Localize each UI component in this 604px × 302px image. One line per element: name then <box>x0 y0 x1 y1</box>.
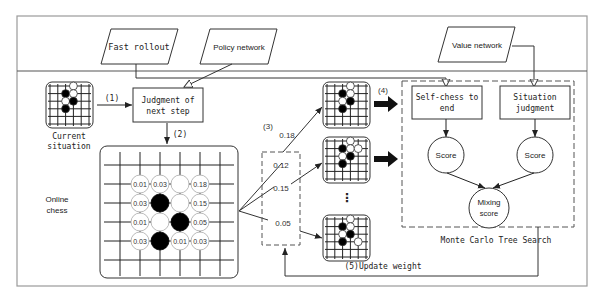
self-chess-label-1: Self-chess to <box>416 93 479 102</box>
white-stone <box>346 90 354 98</box>
current-situation-board <box>46 82 93 128</box>
white-stone <box>354 145 362 153</box>
current-situation-label-2: situation <box>47 142 91 151</box>
white-stone <box>339 230 347 238</box>
policy-network-label: Policy network <box>213 43 266 52</box>
probability-value: 0.01 <box>133 181 147 188</box>
self-chess-label-2: end <box>440 104 455 113</box>
black-stone <box>346 230 354 238</box>
judgment-label-1: Judgment of <box>142 96 195 105</box>
probability-value: 0.05 <box>193 219 207 226</box>
step4-label: (4) <box>378 86 388 95</box>
score-left-node: Score <box>428 137 464 173</box>
judgment-node: Judgment of next step <box>133 88 203 122</box>
step4-arrow-1 <box>374 96 398 112</box>
probability-value: 0.03 <box>133 200 147 207</box>
situation-judgment-label-1: Situation <box>513 93 557 102</box>
white-stone <box>69 82 77 90</box>
alphago-diagram: Fast rollout Policy network Value networ… <box>0 0 604 302</box>
black-stone <box>62 105 70 113</box>
white-stone <box>346 145 354 153</box>
white-stone <box>346 215 354 223</box>
white-stone <box>171 175 189 193</box>
candidate-arrow-2 <box>291 163 322 184</box>
mixing-score-label-2: score <box>480 209 498 218</box>
candidate-arrow-1 <box>283 107 322 152</box>
step2-label: (2) <box>173 130 187 139</box>
white-stone <box>62 97 70 105</box>
black-stone <box>339 223 347 231</box>
candidate-board-1 <box>323 82 370 128</box>
judgment-label-2: next step <box>146 107 190 116</box>
value-network-node: Value network <box>438 27 515 62</box>
board-frame <box>323 82 370 128</box>
score-right-to-mixing-arrow <box>493 173 534 188</box>
score-right-label: Score <box>525 151 546 160</box>
probability-value: 0.03 <box>133 238 147 245</box>
score-left-label: Score <box>436 151 457 160</box>
candidate-prob-4: 0.05 <box>275 219 291 228</box>
board-frame <box>323 137 370 183</box>
fast-rollout-node: Fast rollout <box>101 29 178 64</box>
candidate-prob-1: 0.18 <box>279 131 295 140</box>
board-frame <box>46 82 93 128</box>
white-stone <box>69 90 77 98</box>
policy-network-node: Policy network <box>200 29 277 64</box>
black-stone <box>339 145 347 153</box>
value-network-label: Value network <box>452 41 503 50</box>
black-stone <box>151 232 169 250</box>
candidate-arrow-3 <box>300 231 322 238</box>
step1-label: (1) <box>105 94 119 103</box>
board-frame <box>323 215 370 261</box>
board-frame <box>100 146 238 278</box>
black-stone <box>69 97 77 105</box>
situation-judgment-node: Situation judgment <box>500 86 570 119</box>
self-chess-node: Self-chess to end <box>412 86 482 119</box>
candidate-board-3 <box>323 215 370 261</box>
mixing-score-node: Mixing score <box>469 188 509 228</box>
black-stone <box>339 105 347 113</box>
fast-rollout-label: Fast rollout <box>108 42 169 52</box>
white-stone <box>339 97 347 105</box>
online-chess-label-1: Online <box>45 195 69 204</box>
situation-judgment-label-2: judgment <box>516 104 555 113</box>
black-stone <box>151 194 169 212</box>
probability-value: 0.03 <box>193 238 207 245</box>
white-stone <box>151 213 169 231</box>
step5-label: (5)Update weight <box>344 262 421 271</box>
black-stone <box>339 160 347 168</box>
mixing-score-label-1: Mixing <box>477 198 500 207</box>
white-stone <box>346 137 354 145</box>
white-stone <box>339 152 347 160</box>
white-stone <box>171 194 189 212</box>
black-stone <box>346 97 354 105</box>
candidate-prob-3: 0.15 <box>273 184 289 193</box>
online-chess-board: 0.010.030.180.030.150.010.050.030.010.03 <box>100 146 238 278</box>
score-left-to-mixing-arrow <box>447 173 485 188</box>
black-stone <box>346 152 354 160</box>
black-stone <box>339 238 347 246</box>
white-stone <box>354 238 362 246</box>
probability-value: 0.15 <box>193 200 207 207</box>
mcts-title: Monte Carlo Tree Search <box>441 236 552 245</box>
black-stone <box>62 90 70 98</box>
white-stone <box>346 82 354 90</box>
online-chess-label-2: chess <box>47 206 68 215</box>
score-right-node: Score <box>517 137 553 173</box>
step3-label: (3) <box>263 122 273 131</box>
current-situation-label-1: Current <box>52 132 86 141</box>
probability-value: 0.01 <box>133 219 147 226</box>
policy-connector <box>184 64 232 87</box>
candidate-prob-2: 0.12 <box>273 161 289 170</box>
candidate-board-2 <box>323 137 370 183</box>
fast-rollout-connector <box>136 64 446 87</box>
probability-value: 0.18 <box>193 181 207 188</box>
ellipsis-icon: ⋮ <box>341 191 353 205</box>
white-stone <box>346 223 354 231</box>
step4-arrow-2 <box>374 151 398 167</box>
probability-value: 0.01 <box>173 238 187 245</box>
black-stone <box>171 213 189 231</box>
black-stone <box>339 90 347 98</box>
probability-value: 0.03 <box>153 181 167 188</box>
